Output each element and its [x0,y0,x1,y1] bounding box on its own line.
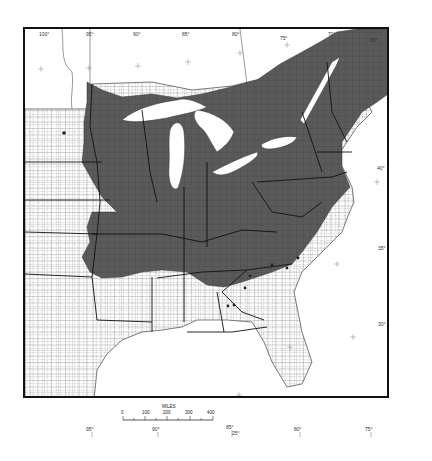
svg-text:0: 0 [121,410,124,415]
svg-text:80°: 80° [294,426,302,432]
svg-text:75°: 75° [365,426,373,432]
scale-bar: MILES 0 100 200 300 400 [121,404,215,420]
svg-text:300: 300 [185,410,193,415]
overlay: MILES 0 100 200 300 400 95° 90° 85° 25° … [0,0,432,461]
bottom-axis-labels: 95° 90° 85° 25° 80° 75° [86,424,373,437]
svg-text:100: 100 [142,410,150,415]
svg-text:200: 200 [163,410,171,415]
svg-text:25°: 25° [232,430,240,436]
svg-text:400: 400 [207,410,215,415]
svg-text:MILES: MILES [162,404,176,409]
svg-text:90°: 90° [152,426,160,432]
svg-text:95°: 95° [86,426,94,432]
